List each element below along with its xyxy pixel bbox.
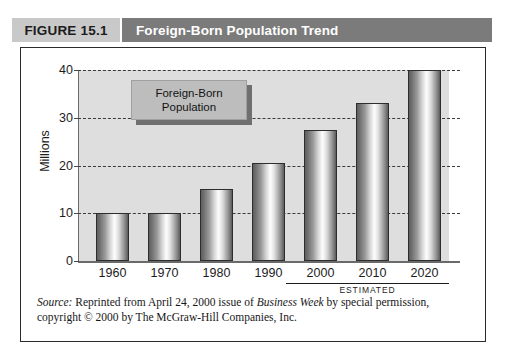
bar-2020 (408, 70, 441, 261)
figure-number-label: FIGURE 15.1 (12, 18, 120, 42)
estimated-bracket-line (286, 283, 449, 284)
x-tick-label-1980: 1980 (191, 266, 243, 280)
x-tick-label-1970: 1970 (139, 266, 191, 280)
chart-region: 40 30 20 10 0 Millions Foreign-Born Popu… (21, 48, 487, 291)
bar-1970 (148, 213, 181, 261)
bar-2000 (304, 130, 337, 261)
bar-1980 (200, 189, 233, 261)
y-tick-mark-40 (74, 70, 79, 71)
figure-header: FIGURE 15.1 Foreign-Born Population Tren… (12, 18, 492, 42)
legend-label-line2: Population (162, 100, 216, 114)
y-axis-title: Millions (38, 111, 52, 191)
source-label: Source: (37, 296, 72, 308)
x-tick-label-2010: 2010 (347, 266, 399, 280)
gridline-40 (78, 70, 460, 71)
x-tick-label-1960: 1960 (87, 266, 139, 280)
x-axis-line (78, 261, 460, 263)
source-publication: Business Week (257, 296, 324, 308)
bar-1960 (96, 213, 129, 261)
y-tick-mark-20 (74, 166, 79, 167)
legend-callout: Foreign-Born Population (131, 80, 247, 120)
source-note: Source: Reprinted from April 24, 2000 is… (21, 295, 487, 325)
y-tick-label-40: 40 (47, 63, 73, 77)
y-tick-label-0: 0 (47, 254, 73, 268)
x-tick-label-2020: 2020 (399, 266, 451, 280)
y-tick-mark-30 (74, 118, 79, 119)
bar-1990 (252, 163, 285, 261)
estimated-label: ESTIMATED (286, 285, 449, 295)
y-tick-mark-10 (74, 213, 79, 214)
x-tick-label-2000: 2000 (295, 266, 347, 280)
legend-label-line1: Foreign-Born (155, 86, 222, 100)
y-tick-mark-0 (74, 261, 79, 262)
figure-title: Foreign-Born Population Trend (120, 18, 492, 42)
y-tick-label-10: 10 (47, 206, 73, 220)
source-text-part1: Reprinted from April 24, 2000 issue of (72, 296, 256, 308)
x-tick-label-1990: 1990 (243, 266, 295, 280)
bar-2010 (356, 103, 389, 261)
figure-panel: 40 30 20 10 0 Millions Foreign-Born Popu… (20, 47, 486, 342)
legend-box: Foreign-Born Population (131, 80, 247, 120)
